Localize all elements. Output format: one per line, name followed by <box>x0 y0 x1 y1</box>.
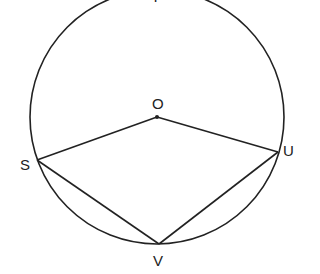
label-v: V <box>153 253 163 268</box>
segment-ou <box>157 117 278 152</box>
label-s: S <box>20 157 30 172</box>
label-t: T <box>151 0 160 4</box>
label-o: O <box>152 96 164 111</box>
circle <box>30 0 284 244</box>
segment-os <box>37 117 157 160</box>
segment-sv <box>37 160 159 244</box>
center-point-o <box>155 115 159 119</box>
label-u: U <box>283 143 294 158</box>
diagram-canvas: T O S U V <box>0 0 320 274</box>
geometry-figure <box>0 0 320 274</box>
segment-uv <box>159 152 278 244</box>
